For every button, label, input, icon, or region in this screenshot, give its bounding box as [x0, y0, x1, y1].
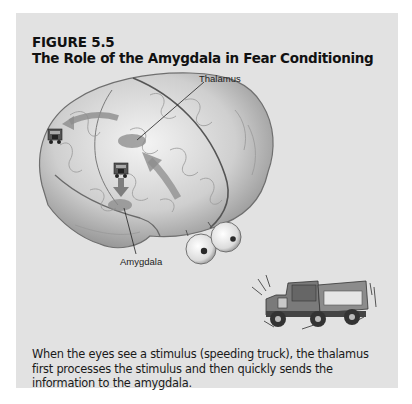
speeding-truck-icon	[252, 275, 376, 329]
brain-illustration	[40, 73, 274, 254]
arrow-thalamus-to-amygdala	[118, 178, 124, 188]
amygdala-label: Amygdala	[120, 256, 162, 267]
fear-conditioning-illustration	[0, 0, 412, 404]
figure-caption: When the eyes see a stimulus (speeding t…	[32, 347, 382, 391]
thalamus-label: Thalamus	[199, 73, 241, 84]
amygdala-region	[108, 199, 132, 211]
